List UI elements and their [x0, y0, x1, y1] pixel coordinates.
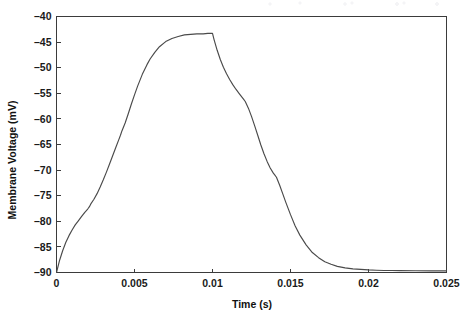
y-tick-label: –40 — [34, 10, 52, 22]
y-tick-label: –65 — [34, 138, 52, 150]
axes-frame — [57, 17, 447, 273]
y-tick-label: –45 — [34, 36, 52, 48]
y-tick-label: –75 — [34, 189, 52, 201]
x-tick-label: 0.015 — [277, 277, 303, 289]
y-tick-label: –50 — [34, 61, 52, 73]
y-tick-label: –85 — [34, 241, 52, 253]
membrane-voltage-figure: –90–85–80–75–70–65–60–55–50–45–40 00.005… — [0, 0, 470, 321]
x-axis-ticks: 00.0050.010.0150.020.025 — [54, 269, 460, 289]
y-tick-label: –60 — [34, 113, 52, 125]
x-axis-title: Time (s) — [232, 298, 272, 310]
y-tick-label: –90 — [34, 266, 52, 278]
x-tick-label: 0 — [54, 277, 60, 289]
y-tick-label: –55 — [34, 87, 52, 99]
y-axis-title: Membrane Voltage (mV) — [6, 101, 18, 220]
plot-frame — [57, 17, 447, 273]
x-tick-label: 0.025 — [433, 277, 459, 289]
x-tick-label: 0.005 — [121, 277, 147, 289]
x-tick-label: 0.02 — [358, 277, 379, 289]
voltage-trace — [57, 33, 447, 272]
y-tick-label: –80 — [34, 215, 52, 227]
x-tick-label: 0.01 — [202, 277, 223, 289]
y-tick-label: –70 — [34, 164, 52, 176]
membrane-voltage-chart: –90–85–80–75–70–65–60–55–50–45–40 00.005… — [0, 0, 470, 321]
